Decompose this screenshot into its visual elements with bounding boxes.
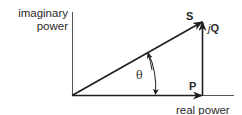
apparent-power-vector [72, 22, 202, 96]
imaginary-axis-label: imaginary power [18, 7, 68, 33]
reactive-power-symbol: Q [210, 22, 219, 34]
imaginary-axis-label-line2: power [18, 20, 68, 33]
angle-label: θ [136, 69, 143, 82]
real-power-label: P [189, 80, 196, 93]
real-axis-label: real power [176, 104, 230, 115]
imaginary-axis-label-line1: imaginary [18, 7, 68, 20]
power-triangle-diagram: imaginary power real power S jQ P θ [0, 0, 242, 115]
reactive-power-label: jQ [208, 22, 219, 35]
apparent-power-label: S [186, 10, 193, 23]
